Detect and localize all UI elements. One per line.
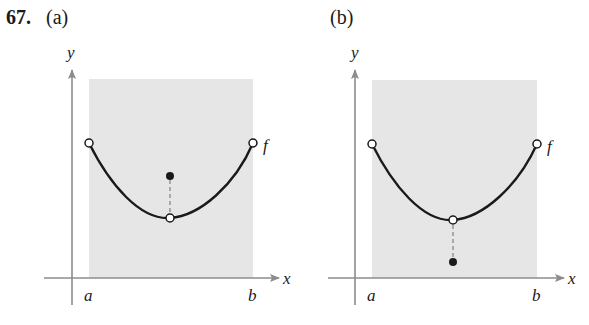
open-endpoint-right-b <box>533 140 541 148</box>
function-label-a: f <box>263 136 270 155</box>
interval-right-label-b: b <box>532 286 541 305</box>
open-endpoint-right-a <box>249 139 257 147</box>
function-label-b: f <box>547 137 554 156</box>
filled-point-a <box>166 172 174 180</box>
graph-b: y x a b f <box>328 43 576 305</box>
graph-a: y x a b f <box>44 43 291 305</box>
y-axis-label-a: y <box>65 43 75 62</box>
open-endpoint-left-b <box>368 140 376 148</box>
open-min-point-b <box>449 216 457 224</box>
interval-left-label-b: a <box>367 286 376 305</box>
interval-left-label-a: a <box>84 286 93 305</box>
open-min-point-a <box>166 214 174 222</box>
interval-right-label-a: b <box>248 286 257 305</box>
filled-point-b <box>449 258 457 266</box>
x-axis-label-a: x <box>282 269 291 288</box>
y-axis-label-b: y <box>349 43 359 62</box>
shaded-interval-b <box>372 80 537 278</box>
open-endpoint-left-a <box>85 139 93 147</box>
graphs-canvas: y x a b f y x a b f <box>0 0 589 325</box>
x-axis-label-b: x <box>567 269 576 288</box>
